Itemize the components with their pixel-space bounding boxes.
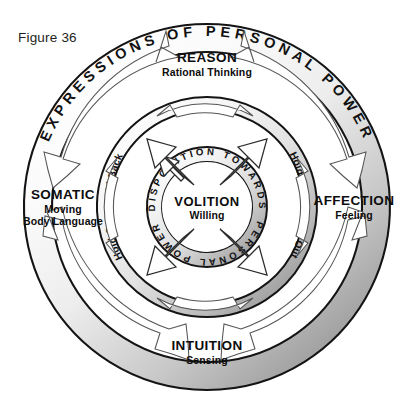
quadrant-reason: REASON Rational Thinking (162, 50, 252, 78)
quadrant-somatic-subtitle: Moving (23, 203, 103, 215)
inner-circle-text: VOLITION Willing (174, 194, 239, 222)
quadrant-somatic-subtitle-2: Body Language (23, 215, 103, 227)
inner-circle-subtitle: Willing (174, 209, 239, 221)
inner-circle-title: VOLITION (174, 194, 239, 209)
quadrant-affection-subtitle: Feeling (314, 209, 395, 221)
quadrant-intuition-subtitle: Sensing (171, 354, 242, 366)
quadrant-somatic: SOMATIC Moving Body Language (23, 187, 103, 228)
quadrant-intuition-title: INTUITION (171, 338, 242, 354)
quadrant-reason-subtitle: Rational Thinking (162, 66, 252, 78)
quadrant-reason-title: REASON (162, 50, 252, 66)
quadrant-affection-title: AFFECTION (314, 193, 395, 209)
figure-canvas: Figure 36 (0, 0, 410, 404)
quadrant-affection: AFFECTION Feeling (314, 193, 395, 221)
quadrant-intuition: INTUITION Sensing (171, 338, 242, 366)
quadrant-somatic-title: SOMATIC (23, 187, 103, 203)
